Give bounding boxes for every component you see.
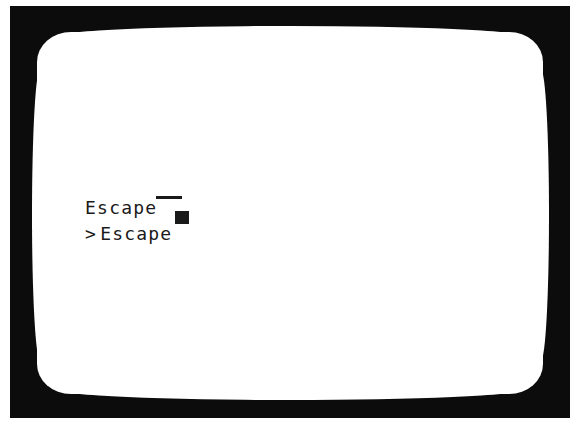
prompt-icon: > [85, 225, 97, 243]
underscore-cursor-icon [156, 196, 182, 199]
command-input-text[interactable]: Escape [100, 223, 172, 244]
input-line[interactable]: >Escape [61, 207, 172, 243]
block-cursor-icon [175, 211, 189, 224]
